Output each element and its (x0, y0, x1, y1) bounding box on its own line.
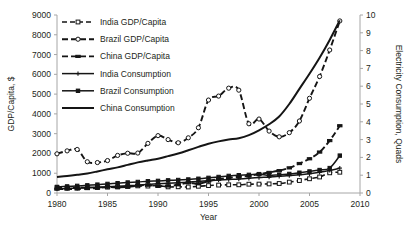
series-brazil-gdp-capita (55, 19, 342, 165)
y-tick-label: 0 (46, 188, 51, 198)
y-tick-label: 9000 (32, 10, 51, 20)
y-tick-label: 7000 (32, 50, 51, 60)
legend-item-china-gdp-capita[interactable]: China GDP/Capita (62, 51, 170, 61)
y-tick-label: 3000 (32, 129, 51, 139)
x-tick-label: 1990 (149, 199, 168, 209)
y-tick-label: 2000 (32, 148, 51, 158)
y2-tick-label: 8 (366, 46, 371, 56)
x-tick-label: 1980 (48, 199, 67, 209)
y2-tick-label: 9 (366, 28, 371, 38)
y2-tick-label: 2 (366, 152, 371, 162)
legend-label: Brazil GDP/Capita (100, 34, 169, 44)
legend-item-brazil-consumption[interactable]: Brazil Consumption (62, 86, 174, 96)
y-tick-label: 6000 (32, 69, 51, 79)
series-group (55, 19, 342, 191)
y-axis-title: GDP/Capita, $ (6, 76, 16, 131)
y-tick-label: 4000 (32, 109, 51, 119)
y-tick-label: 1000 (32, 168, 51, 178)
chart-container: India GDP/CapitaBrazil GDP/CapitaChina G… (0, 0, 406, 234)
legend-item-india-consumption[interactable]: India Consumption (62, 69, 171, 79)
chart-plot: India GDP/CapitaBrazil GDP/CapitaChina G… (0, 0, 406, 234)
y2-tick-label: 3 (366, 135, 371, 145)
y2-tick-label: 0 (366, 188, 371, 198)
y2-tick-label: 1 (366, 170, 371, 180)
legend-item-india-gdp-capita[interactable]: India GDP/Capita (62, 17, 166, 27)
y-tick-label: 8000 (32, 30, 51, 40)
x-tick-label: 1995 (199, 199, 218, 209)
legend-label: China Consumption (100, 103, 175, 113)
y-tick-label: 5000 (32, 89, 51, 99)
y2-tick-label: 4 (366, 117, 371, 127)
y2-tick-label: 7 (366, 63, 371, 73)
x-tick-label: 1985 (98, 199, 117, 209)
legend-label: India Consumption (100, 69, 171, 79)
legend-label: Brazil Consumption (100, 86, 174, 96)
y2-tick-label: 6 (366, 81, 371, 91)
y2-tick-label: 5 (366, 99, 371, 109)
x-tick-label: 2010 (351, 199, 370, 209)
y2-axis-title: Electricity Consumption, Quads (394, 45, 404, 164)
chart-legend: India GDP/CapitaBrazil GDP/CapitaChina G… (62, 17, 175, 113)
y2-tick-label: 10 (366, 10, 376, 20)
legend-item-china-consumption[interactable]: China Consumption (62, 103, 175, 113)
legend-item-brazil-gdp-capita[interactable]: Brazil GDP/Capita (62, 34, 169, 44)
legend-label: India GDP/Capita (100, 17, 166, 27)
x-tick-label: 2000 (250, 199, 269, 209)
x-axis-title: Year (200, 212, 217, 222)
x-tick-label: 2005 (300, 199, 319, 209)
legend-label: China GDP/Capita (100, 51, 170, 61)
